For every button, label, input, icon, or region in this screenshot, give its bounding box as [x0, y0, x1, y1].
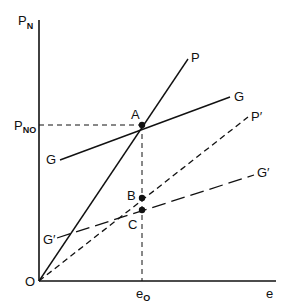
line-G-prime-end-label: G′ [257, 165, 270, 180]
line-G-prime [57, 175, 254, 238]
line-P [39, 59, 188, 281]
line-G-end-label: G [234, 89, 244, 104]
origin-label: O [25, 274, 35, 289]
line-P-label: P [191, 50, 200, 65]
point-C-label: C [128, 217, 137, 232]
e0-label: eO [136, 286, 150, 303]
y-axis-label: PN [18, 13, 33, 31]
line-P-prime-label: P′ [251, 109, 263, 124]
point-A-label: A [131, 107, 140, 122]
pno-label: PNO [14, 118, 36, 135]
point-B-label: B [127, 188, 136, 203]
x-axis-label: e [266, 286, 273, 301]
diagram-canvas: PN PNO O eO e P G G P′ G′ G′ A B C [0, 0, 288, 307]
point-B [139, 195, 145, 201]
point-C [139, 207, 145, 213]
line-G-prime-start-label: G′ [43, 232, 56, 247]
line-G-start-label: G [46, 152, 56, 167]
point-A [139, 122, 145, 128]
